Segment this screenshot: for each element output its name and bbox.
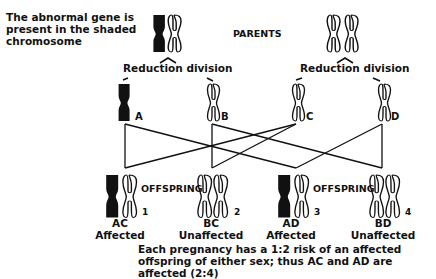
offspring-1-chromosomes bbox=[106, 175, 136, 218]
gamete-label-a: A bbox=[135, 111, 143, 123]
offspring-number-1: 1 bbox=[142, 207, 148, 217]
offspring-status-2: Unaffected bbox=[171, 229, 251, 241]
line-d-to-offspring-3 bbox=[296, 124, 382, 168]
offspring-label-right: OFFSPRING bbox=[313, 184, 374, 195]
gamete-label-d: D bbox=[391, 111, 399, 123]
intro-text: The abnormal gene is present in the shad… bbox=[6, 11, 156, 47]
reduction-division-label-left: Reduction division bbox=[123, 62, 232, 74]
offspring-4-chromosomes bbox=[370, 175, 400, 218]
footnote: Each pregnancy has a 1:2 risk of an affe… bbox=[138, 243, 436, 279]
offspring-2-chromosomes bbox=[198, 175, 228, 218]
offspring-3-chromosomes bbox=[278, 175, 308, 218]
line-b-to-offspring-4 bbox=[212, 124, 382, 168]
gamete-chromosome-c bbox=[293, 84, 305, 121]
gamete-chromosome-d bbox=[379, 84, 391, 121]
parent-chromosome-normal bbox=[168, 15, 181, 52]
offspring-status-4: Unaffected bbox=[343, 229, 423, 241]
offspring-caption-4: BD Unaffected bbox=[343, 217, 423, 241]
offspring-caption-1: AC Affected bbox=[80, 217, 160, 241]
offspring-number-4: 4 bbox=[405, 207, 411, 217]
offspring-number-2: 2 bbox=[234, 207, 240, 217]
gamete-label-c: C bbox=[306, 111, 313, 123]
gamete-label-b: B bbox=[221, 111, 229, 123]
parent-chromosome-normal bbox=[327, 15, 358, 52]
gamete-chromosome-b bbox=[208, 84, 220, 121]
gamete-chromosome-a bbox=[119, 84, 130, 121]
offspring-status-3: Affected bbox=[251, 229, 331, 241]
reduction-division-label-right: Reduction division bbox=[300, 62, 409, 74]
offspring-caption-2: BC Unaffected bbox=[171, 217, 251, 241]
offspring-status-1: Affected bbox=[80, 229, 160, 241]
offspring-genotype-3: AD bbox=[251, 217, 331, 229]
offspring-number-3: 3 bbox=[314, 207, 320, 217]
parents-label: PARENTS bbox=[233, 29, 282, 40]
line-c-to-offspring-2 bbox=[212, 124, 296, 168]
offspring-genotype-1: AC bbox=[80, 217, 160, 229]
offspring-label-left: OFFSPRING bbox=[141, 184, 202, 195]
offspring-caption-3: AD Affected bbox=[251, 217, 331, 241]
cross-lines bbox=[125, 124, 382, 168]
offspring-genotype-4: BD bbox=[343, 217, 423, 229]
offspring-genotype-2: BC bbox=[171, 217, 251, 229]
